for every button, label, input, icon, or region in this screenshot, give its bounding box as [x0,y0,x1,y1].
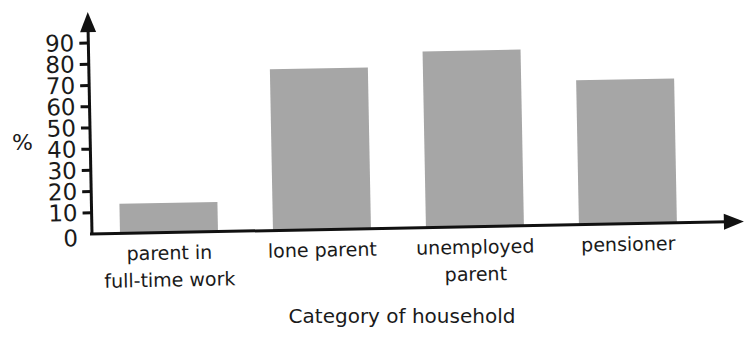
y-ticks-group: 0102030405060708090 [45,30,93,252]
bar-chart: 0102030405060708090 parent infull-time w… [0,0,748,338]
y-axis-label: % [12,130,33,155]
bar-parent-in-full-time-work [119,202,218,234]
bar-lone-parent [270,67,371,230]
x-tick-label: lone parent [268,238,377,262]
x-tick-label: pensioner [581,232,676,256]
x-tick-label: unemployed [416,235,535,259]
x-tick-label: parent [444,262,507,285]
bar-pensioner [576,78,677,224]
y-tick-label: 90 [45,30,75,57]
x-axis-arrow-icon [724,213,744,229]
x-tick-label: parent in [126,241,212,265]
y-tick-label: 0 [63,225,78,251]
bars-group [117,47,677,234]
x-tick-label: full-time work [104,267,235,292]
category-labels-group: parent infull-time worklone parentunempl… [104,232,677,292]
y-axis [88,28,92,234]
x-axis-label: Category of household [289,304,516,328]
bar-unemployed-parent [423,50,524,228]
y-axis-arrow-icon [80,12,96,32]
